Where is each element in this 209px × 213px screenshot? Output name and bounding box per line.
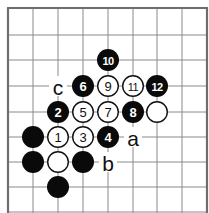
white-stone-5: 5 bbox=[73, 102, 94, 123]
black-stone bbox=[47, 176, 69, 198]
black-stone bbox=[72, 151, 94, 173]
move-number: 12 bbox=[151, 81, 163, 93]
move-number: 9 bbox=[104, 79, 111, 94]
mark-label: c bbox=[53, 76, 64, 99]
black-stone-icon bbox=[47, 176, 69, 198]
move-number: 6 bbox=[79, 79, 86, 94]
mark-c: c bbox=[49, 76, 67, 99]
black-stone-2: 2 bbox=[47, 101, 69, 123]
white-stone-1: 1 bbox=[48, 127, 69, 148]
move-number: 1 bbox=[54, 130, 61, 145]
white-stone-icon bbox=[147, 102, 168, 123]
move-number: 4 bbox=[104, 130, 112, 145]
black-stone-10: 10 bbox=[97, 49, 119, 71]
white-stone-9: 9 bbox=[98, 76, 119, 97]
white-stone-icon bbox=[48, 152, 69, 173]
black-stone-8: 8 bbox=[122, 101, 144, 123]
move-number: 7 bbox=[104, 105, 111, 120]
white-stone bbox=[48, 152, 69, 173]
black-stone bbox=[22, 151, 44, 173]
move-number: 11 bbox=[128, 81, 139, 93]
black-stone-icon bbox=[22, 126, 44, 148]
black-stone bbox=[22, 126, 44, 148]
move-number: 8 bbox=[129, 105, 136, 120]
black-stone-icon bbox=[72, 151, 94, 173]
white-stone bbox=[147, 102, 168, 123]
mark-label: a bbox=[127, 127, 139, 150]
black-stone-icon bbox=[22, 151, 44, 173]
go-board: cab 106911122578134 bbox=[0, 0, 209, 213]
white-stone-7: 7 bbox=[98, 102, 119, 123]
black-stone-12: 12 bbox=[146, 75, 168, 97]
move-number: 5 bbox=[79, 105, 86, 120]
stones: 106911122578134 bbox=[22, 49, 168, 198]
mark-label: b bbox=[102, 152, 114, 175]
white-stone-3: 3 bbox=[73, 127, 94, 148]
move-number: 2 bbox=[54, 105, 61, 120]
mark-a: a bbox=[124, 127, 142, 150]
move-number: 3 bbox=[79, 130, 86, 145]
move-number: 10 bbox=[102, 55, 114, 67]
black-stone-4: 4 bbox=[97, 126, 119, 148]
white-stone-11: 11 bbox=[123, 76, 144, 97]
mark-b: b bbox=[99, 152, 117, 175]
black-stone-6: 6 bbox=[72, 75, 94, 97]
